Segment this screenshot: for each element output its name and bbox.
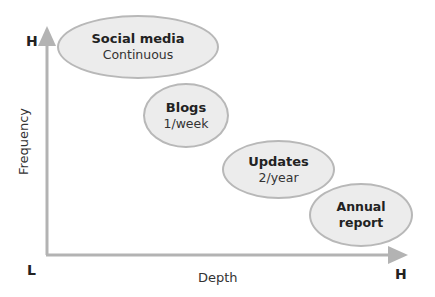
- bubble-title: Updates: [248, 154, 309, 170]
- bubble-social-media: Social media Continuous: [57, 15, 219, 79]
- origin-low-label: L: [27, 262, 36, 278]
- x-axis-arrow-icon: [388, 246, 408, 264]
- bubble-subtitle: report: [339, 215, 383, 231]
- y-axis-high-label: H: [26, 33, 38, 49]
- bubble-blogs: Blogs 1/week: [143, 83, 229, 148]
- bubble-annual-report: Annual report: [309, 183, 413, 247]
- x-axis-label: Depth: [198, 270, 238, 285]
- y-axis-label: Frequency: [16, 107, 31, 177]
- x-axis-high-label: H: [395, 266, 407, 282]
- bubble-subtitle: Continuous: [103, 47, 174, 63]
- bubble-subtitle: 2/year: [258, 170, 298, 186]
- bubble-title: Annual: [336, 199, 385, 215]
- bubble-title: Social media: [91, 31, 184, 47]
- bubble-title: Blogs: [166, 100, 206, 116]
- bubble-updates: Updates 2/year: [222, 140, 335, 199]
- y-axis-arrow-icon: [38, 26, 56, 46]
- bubble-subtitle: 1/week: [163, 116, 208, 132]
